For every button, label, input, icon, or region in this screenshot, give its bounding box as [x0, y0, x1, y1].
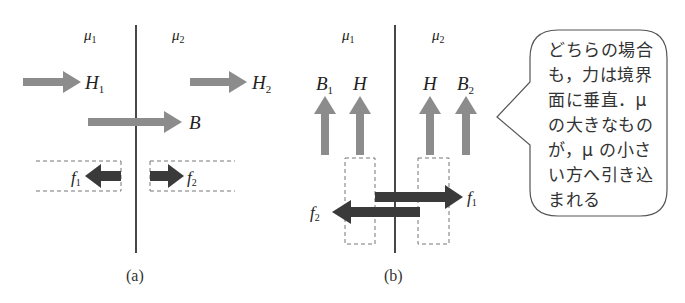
f1-arrow-icon-a	[85, 164, 121, 188]
b-label-a: B	[189, 112, 201, 133]
mu1-label-b: μ1	[341, 27, 355, 45]
f2-label-a: f2	[187, 168, 197, 188]
panel-b: μ1 μ2 B1 H H B2 f1	[310, 25, 477, 285]
h1-arrow-icon	[23, 71, 81, 93]
b1-arrow-icon	[314, 96, 336, 155]
h2-arrow-icon	[190, 71, 247, 93]
b1-label: B1	[316, 73, 333, 96]
mu2-label-b: μ2	[431, 27, 445, 45]
h-left-label: H	[352, 73, 368, 94]
b-arrow-icon	[88, 111, 182, 133]
mu2-label-a: μ2	[171, 27, 185, 45]
caption-b: (b)	[384, 267, 403, 285]
h1-label: H1	[84, 72, 104, 95]
caption-a: (a)	[126, 267, 144, 285]
panel-a: μ1 μ2 H1 H2 B	[23, 25, 271, 285]
b2-arrow-icon	[455, 96, 477, 155]
f1-arrow-icon-b	[375, 185, 463, 209]
h-right-label: H	[422, 73, 438, 94]
b2-label: B2	[457, 73, 474, 96]
f2-label-b: f2	[310, 203, 320, 223]
callout-text: どちらの場合 も，力は境界 面に垂直．μ の大きなもの が，μ の小さ い方へ引…	[548, 38, 666, 213]
f1-label-a: f1	[71, 168, 81, 188]
h-right-arrow-icon	[419, 96, 441, 155]
h-left-arrow-icon	[349, 96, 371, 155]
mu1-label-a: μ1	[83, 27, 97, 45]
f1-label-b: f1	[467, 188, 477, 208]
h2-label: H2	[251, 72, 271, 95]
f2-arrow-icon-a	[150, 164, 184, 188]
